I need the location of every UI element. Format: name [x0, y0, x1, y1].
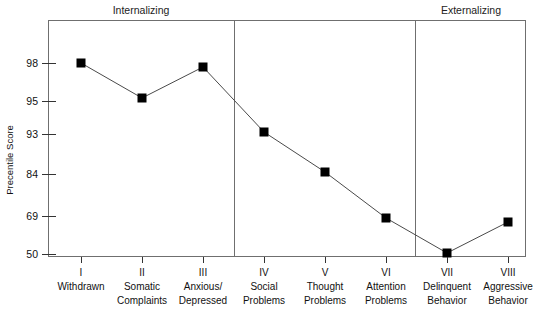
- x-tick-name1-7: Delinquent: [423, 281, 471, 292]
- x-tick-name1-2: Somatic: [124, 281, 160, 292]
- data-point-thought-problems: [321, 168, 330, 177]
- data-point-somatic-complaints: [138, 94, 147, 103]
- y-axis-title: Precentile Score: [4, 125, 15, 195]
- y-tick-label-95: 95: [26, 95, 38, 107]
- data-point-aggressive-behavior: [504, 218, 513, 227]
- group-label-externalizing: Externalizing: [441, 4, 501, 16]
- x-tick-name1-4: Social: [250, 281, 277, 292]
- data-point-withdrawn: [77, 59, 86, 68]
- y-tick-label-98: 98: [26, 57, 38, 69]
- x-tick-roman-4: IV: [259, 267, 269, 278]
- x-tick-name2-3: Depressed: [179, 295, 227, 306]
- x-tick-roman-7: VII: [441, 267, 453, 278]
- x-tick-name2-4: Problems: [243, 295, 285, 306]
- percentile-score-line-chart: Internalizing Externalizing 98 95 93 84 …: [0, 0, 538, 320]
- y-tick-label-93: 93: [26, 128, 38, 140]
- x-tick-roman-2: II: [139, 267, 145, 278]
- x-tick-roman-6: VI: [381, 267, 390, 278]
- x-tick-name2-7: Behavior: [427, 295, 467, 306]
- data-point-delinquent-behavior: [443, 249, 452, 258]
- group-label-internalizing: Internalizing: [113, 4, 170, 16]
- data-point-social-problems: [260, 128, 269, 137]
- x-tick-name2-6: Problems: [365, 295, 407, 306]
- x-tick-name2-8: Behavior: [488, 295, 528, 306]
- x-tick-roman-8: VIII: [500, 267, 515, 278]
- y-tick-label-69: 69: [26, 210, 38, 222]
- x-tick-name1-8: Aggressive: [483, 281, 533, 292]
- x-tick-roman-5: V: [322, 267, 329, 278]
- x-tick-name1-3: Anxious/: [184, 281, 223, 292]
- x-tick-roman-3: III: [199, 267, 207, 278]
- x-tick-roman-1: I: [80, 267, 83, 278]
- x-tick-name1-5: Thought: [307, 281, 344, 292]
- y-tick-label-50: 50: [26, 248, 38, 260]
- data-point-anxious-depressed: [199, 63, 208, 72]
- x-tick-name1-1: Withdrawn: [57, 281, 104, 292]
- y-tick-label-84: 84: [26, 168, 38, 180]
- data-point-attention-problems: [382, 214, 391, 223]
- x-tick-name1-6: Attention: [366, 281, 405, 292]
- x-tick-name2-2: Complaints: [117, 295, 167, 306]
- x-tick-name2-5: Problems: [304, 295, 346, 306]
- chart-container: Internalizing Externalizing 98 95 93 84 …: [0, 0, 538, 320]
